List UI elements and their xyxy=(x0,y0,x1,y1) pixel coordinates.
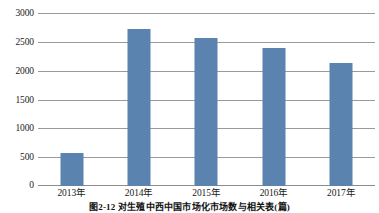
bar-2014[interactable] xyxy=(128,29,151,186)
y-axis-tick-label-3000: 3000 xyxy=(0,9,34,19)
bar-slot-2015 xyxy=(173,13,240,186)
x-axis-tick-label-2016: 2016年 xyxy=(240,189,307,199)
y-axis-tick-label-2000: 2000 xyxy=(0,67,34,77)
bar-slot-2013 xyxy=(38,13,105,186)
bar-chart-figure: 3000 2500 2000 1500 1000 500 0 2013年 201… xyxy=(0,0,379,213)
bar-slot-2016 xyxy=(240,13,307,186)
bar-slot-2014 xyxy=(105,13,172,186)
bars-group xyxy=(38,13,375,186)
bar-slot-2017 xyxy=(308,13,375,186)
x-axis-tick-label-2013: 2013年 xyxy=(38,189,105,199)
bar-2015[interactable] xyxy=(195,38,218,186)
y-axis-tick-label-0: 0 xyxy=(0,181,34,191)
y-axis-tick-label-1500: 1500 xyxy=(0,96,34,106)
y-axis-tick-label-1000: 1000 xyxy=(0,124,34,134)
figure-caption: 图2-12 对生殖中西中国市场化市场数与相关表(篇) xyxy=(0,203,379,213)
y-axis-tick-label-2500: 2500 xyxy=(0,38,34,48)
x-axis-tick-label-2014: 2014年 xyxy=(105,189,172,199)
bar-2017[interactable] xyxy=(330,63,353,186)
x-axis-tick-label-2017: 2017年 xyxy=(308,189,375,199)
y-axis-tick-label-500: 500 xyxy=(0,153,34,163)
bar-2016[interactable] xyxy=(262,48,285,186)
bar-2013[interactable] xyxy=(60,153,83,186)
x-axis-tick-label-2015: 2015年 xyxy=(173,189,240,199)
